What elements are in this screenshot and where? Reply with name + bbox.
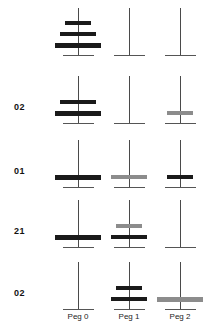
- peg-base: [114, 187, 145, 188]
- peg-base: [114, 123, 145, 124]
- peg-rod: [180, 200, 181, 247]
- disc-medium-dark[interactable]: [60, 100, 96, 104]
- peg-base: [63, 247, 94, 248]
- disc-large-gray[interactable]: [157, 297, 203, 302]
- disc-large-dark[interactable]: [55, 43, 101, 48]
- disc-small-dark[interactable]: [65, 21, 91, 25]
- hanoi-state-row: 01: [0, 140, 208, 191]
- peg-caption-2: Peg 2: [155, 312, 205, 321]
- peg-rod: [129, 140, 130, 187]
- peg-rod: [78, 262, 79, 309]
- hanoi-state-row: 02: [0, 76, 208, 127]
- peg-base: [165, 123, 196, 124]
- disc-large-dark[interactable]: [55, 111, 101, 116]
- peg-base: [63, 123, 94, 124]
- move-label: 02: [14, 102, 25, 112]
- hanoi-figure: 02012102Peg 0Peg 1Peg 2: [0, 0, 208, 335]
- disc-medium-gray[interactable]: [111, 175, 147, 179]
- disc-small-gray[interactable]: [116, 224, 142, 228]
- move-label: 01: [14, 166, 25, 176]
- peg-base: [165, 55, 196, 56]
- peg-base: [63, 187, 94, 188]
- peg-caption-1: Peg 1: [104, 312, 154, 321]
- disc-large-dark[interactable]: [55, 235, 101, 240]
- peg-rod: [180, 76, 181, 123]
- peg-base: [165, 187, 196, 188]
- peg-base: [165, 309, 196, 310]
- move-label: 02: [14, 288, 25, 298]
- peg-rod: [129, 8, 130, 55]
- peg-base: [63, 55, 94, 56]
- peg-base: [114, 309, 145, 310]
- peg-rod: [129, 76, 130, 123]
- disc-medium-dark[interactable]: [111, 235, 147, 239]
- peg-rod: [180, 8, 181, 55]
- disc-small-gray[interactable]: [167, 111, 193, 115]
- peg-base: [63, 309, 94, 310]
- peg-caption-0: Peg 0: [53, 312, 103, 321]
- peg-rod: [180, 140, 181, 187]
- hanoi-state-row: [0, 8, 208, 59]
- disc-large-dark[interactable]: [55, 175, 101, 180]
- disc-small-dark[interactable]: [116, 286, 142, 290]
- peg-base: [114, 247, 145, 248]
- hanoi-state-row: 02: [0, 262, 208, 313]
- peg-base: [114, 55, 145, 56]
- peg-base: [165, 247, 196, 248]
- disc-medium-dark[interactable]: [111, 297, 147, 301]
- disc-medium-dark[interactable]: [60, 32, 96, 36]
- move-label: 21: [14, 226, 25, 236]
- disc-small-dark[interactable]: [167, 175, 193, 179]
- hanoi-state-row: 21: [0, 200, 208, 251]
